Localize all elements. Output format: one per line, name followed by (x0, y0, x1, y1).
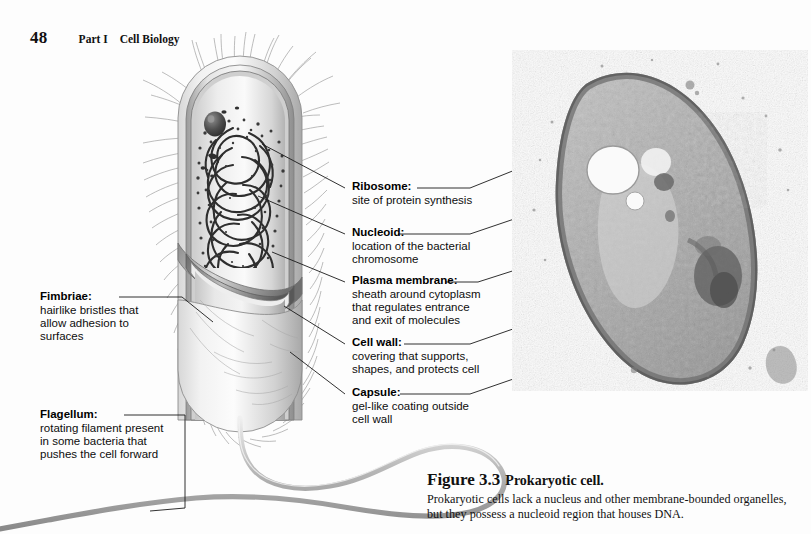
label-plasma-membrane-lead: Plasma membrane: (352, 274, 481, 288)
label-ribosome-lead: Ribosome: (352, 180, 472, 194)
figure-title: Prokaryotic cell. (505, 473, 604, 488)
label-nucleoid-desc: location of the bacterial chromosome (352, 240, 470, 266)
label-flagellum-lead: Flagellum: (40, 408, 163, 422)
textbook-page: 48 Part I Cell Biology (0, 0, 811, 534)
inclusion-granule (204, 112, 226, 137)
micrograph-image (512, 50, 808, 391)
subject-label: Cell Biology (120, 33, 180, 45)
label-fimbriae-lead: Fimbriae: (40, 290, 138, 304)
cutaway-section (178, 243, 302, 420)
label-cell-wall-desc: covering that supports, shapes, and prot… (352, 350, 479, 376)
label-nucleoid: Nucleoid: location of the bacterial chro… (352, 226, 470, 266)
label-flagellum-desc: rotating filament present in some bacter… (40, 422, 163, 462)
label-cell-wall-lead: Cell wall: (352, 336, 479, 350)
label-plasma-membrane: Plasma membrane: sheath around cytoplasm… (352, 274, 481, 327)
part-label: Part I (79, 33, 108, 45)
ribosome-granules (196, 119, 284, 268)
label-ribosome-desc: site of protein synthesis (352, 194, 472, 207)
label-plasma-membrane-desc: sheath around cytoplasm that regulates e… (352, 288, 481, 328)
fimbriae-hairs (143, 32, 340, 448)
label-fimbriae-desc: hairlike bristles that allow adhesion to… (40, 304, 138, 344)
cell-lower-body (178, 300, 302, 432)
figure-caption-body: Prokaryotic cells lack a nucleus and oth… (427, 492, 799, 521)
label-flagellum: Flagellum: rotating filament present in … (40, 408, 163, 461)
plasma-membrane-layer (191, 71, 289, 420)
cell-wall-layer (186, 65, 294, 420)
figure-title-line: Figure 3.3Prokaryotic cell. (427, 470, 799, 490)
label-capsule-lead: Capsule: (352, 386, 469, 400)
figure-number: Figure 3.3 (427, 470, 500, 489)
label-capsule: Capsule: gel-like coating outside cell w… (352, 386, 469, 426)
figure-caption: Figure 3.3Prokaryotic cell. Prokaryotic … (427, 470, 799, 521)
small-inclusions (201, 107, 240, 178)
label-ribosome: Ribosome: site of protein synthesis (352, 180, 472, 207)
page-number: 48 (30, 28, 48, 48)
label-fimbriae: Fimbriae: hairlike bristles that allow a… (40, 290, 138, 343)
capsule-layer (178, 56, 302, 420)
label-capsule-desc: gel-like coating outside cell wall (352, 400, 469, 426)
label-cell-wall: Cell wall: covering that supports, shape… (352, 336, 479, 376)
running-head: 48 Part I Cell Biology (30, 28, 179, 48)
electron-micrograph (512, 50, 808, 391)
nucleoid-dna (202, 128, 273, 365)
label-nucleoid-lead: Nucleoid: (352, 226, 470, 240)
cytoplasm (195, 76, 285, 420)
